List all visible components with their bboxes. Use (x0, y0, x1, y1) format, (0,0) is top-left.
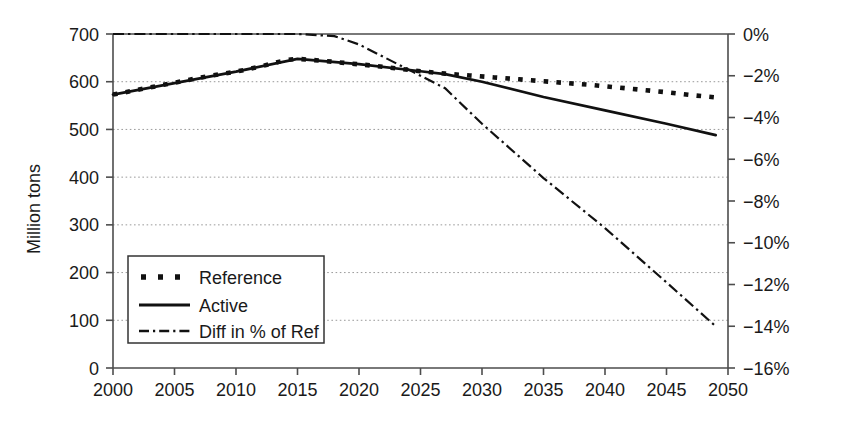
x-axis-labels: 2000200520102015202020252030203520402045… (93, 380, 748, 400)
y-tick-label-right: −12% (743, 275, 790, 295)
x-tick-label: 2035 (523, 380, 563, 400)
y-tick-label-right: −8% (743, 192, 780, 212)
y-tick-label-left: 300 (69, 215, 99, 235)
x-tick-label: 2040 (585, 380, 625, 400)
y-tick-label-left: 100 (69, 311, 99, 331)
y-tick-label-left: 200 (69, 263, 99, 283)
y-tick-label-right: −6% (743, 150, 780, 170)
y-tick-label-left: 600 (69, 72, 99, 92)
y-tick-label-right: 0% (743, 25, 769, 45)
x-tick-label: 2030 (462, 380, 502, 400)
y-tick-label-right: −16% (743, 359, 790, 379)
y-tick-label-right: −10% (743, 233, 790, 253)
y-tick-label-right: −14% (743, 317, 790, 337)
legend-label-reference: Reference (199, 268, 282, 288)
chart-figure: 0100200300400500600700 0%−2%−4%−6%−8%−10… (0, 0, 850, 429)
x-tick-label: 2015 (277, 380, 317, 400)
y-axis-left-title: Million tons (24, 164, 44, 254)
y-tick-label-right: −4% (743, 108, 780, 128)
y-tick-label-left: 500 (69, 120, 99, 140)
x-tick-label: 2050 (708, 380, 748, 400)
y-tick-label-left: 700 (69, 25, 99, 45)
legend-label-active: Active (199, 296, 248, 316)
x-tick-label: 2010 (216, 380, 256, 400)
line-chart: 0100200300400500600700 0%−2%−4%−6%−8%−10… (0, 0, 850, 429)
legend-label-diff: Diff in % of Ref (199, 322, 320, 342)
x-tick-label: 2020 (339, 380, 379, 400)
x-tick-label: 2045 (646, 380, 686, 400)
x-tick-label: 2005 (154, 380, 194, 400)
x-tick-label: 2000 (93, 380, 133, 400)
y-tick-label-right: −2% (743, 66, 780, 86)
y-tick-label-left: 0 (89, 359, 99, 379)
chart-background (0, 0, 850, 429)
y-tick-label-left: 400 (69, 168, 99, 188)
x-tick-label: 2025 (400, 380, 440, 400)
chart-legend: Reference Active Diff in % of Ref (128, 256, 324, 343)
